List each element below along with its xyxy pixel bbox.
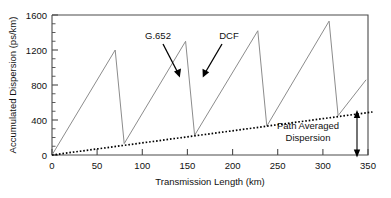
dcf-label: DCF xyxy=(219,30,239,41)
y-axis-title: Accumulated Dispersion (ps/km) xyxy=(7,17,18,154)
path-averaged-dispersion-annotation: Path Averaged Dispersion xyxy=(277,110,360,158)
path-averaged-dispersion-label-line2: Dispersion xyxy=(286,132,331,143)
y-tick-labels: 0 400 800 1200 1600 xyxy=(26,10,47,161)
y-tick-label-800: 800 xyxy=(31,80,47,91)
x-tick-label-150: 150 xyxy=(179,160,195,171)
x-tick-label-0: 0 xyxy=(49,160,54,171)
x-tick-label-50: 50 xyxy=(92,160,103,171)
chart-figure: 0 400 800 1200 1600 0 50 100 150 200 250… xyxy=(0,0,391,198)
y-tick-label-1200: 1200 xyxy=(26,45,47,56)
y-tick-label-1600: 1600 xyxy=(26,10,47,21)
path-averaged-arrow-head-bottom xyxy=(354,150,360,158)
x-tick-label-300: 300 xyxy=(315,160,331,171)
x-tick-label-200: 200 xyxy=(225,160,241,171)
x-tick-labels: 0 50 100 150 200 250 300 350 xyxy=(49,160,376,171)
path-averaged-dispersion-label-line1: Path Averaged xyxy=(277,120,339,131)
y-tick-label-400: 400 xyxy=(31,115,47,126)
g652-arrow-head xyxy=(174,69,181,78)
dcf-arrow-head xyxy=(203,69,210,78)
x-tick-label-350: 350 xyxy=(360,160,376,171)
y-tick-label-0: 0 xyxy=(42,150,47,161)
chart-svg: 0 400 800 1200 1600 0 50 100 150 200 250… xyxy=(0,0,391,198)
g652-annotation: G.652 xyxy=(145,30,181,78)
dcf-arrow-shaft xyxy=(205,44,222,73)
g652-label: G.652 xyxy=(145,30,171,41)
x-axis-major-ticks xyxy=(52,149,368,155)
y-axis-major-ticks xyxy=(52,15,58,155)
x-tick-label-100: 100 xyxy=(134,160,150,171)
x-axis-title: Transmission Length (km) xyxy=(155,176,264,187)
x-tick-label-250: 250 xyxy=(270,160,286,171)
